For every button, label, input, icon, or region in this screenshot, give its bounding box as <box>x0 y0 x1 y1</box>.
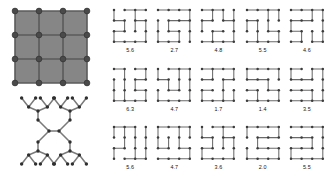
spanning-tree-node <box>233 99 236 102</box>
spanning-tree-node <box>290 9 293 12</box>
lattice-node <box>60 80 66 86</box>
spanning-tree-node <box>222 9 225 12</box>
spanning-tree-node <box>157 67 160 70</box>
spanning-tree-node <box>290 41 293 44</box>
lattice-node <box>84 8 90 14</box>
tree-node <box>71 96 74 99</box>
spanning-tree-node <box>267 19 270 22</box>
spanning-tree-node <box>290 126 293 129</box>
lattice-face <box>15 11 39 35</box>
spanning-tree-node <box>277 137 280 140</box>
spanning-tree-node <box>321 89 324 92</box>
spanning-tree-node <box>277 78 280 81</box>
spanning-tree-node <box>267 67 270 70</box>
sample-tree-svg <box>286 122 328 164</box>
tree-edge <box>72 155 79 164</box>
tree-node <box>46 153 49 156</box>
spanning-tree-node <box>123 9 126 12</box>
spanning-tree-node <box>123 19 126 22</box>
spanning-tree-node <box>256 158 259 161</box>
spanning-tree-node <box>201 126 204 129</box>
tree-edge <box>59 120 70 131</box>
spanning-tree-node <box>256 9 259 12</box>
sample-cell: 4.7 <box>152 117 196 176</box>
spanning-tree-node <box>201 89 204 92</box>
lattice-node <box>84 80 90 86</box>
spanning-tree-node <box>233 158 236 161</box>
spanning-tree-node <box>145 41 148 44</box>
spanning-tree-node <box>212 137 215 140</box>
spanning-tree-node <box>245 99 248 102</box>
spanning-tree-node <box>267 89 270 92</box>
spanning-tree-node <box>277 158 280 161</box>
spanning-tree-node <box>157 137 160 140</box>
spanning-tree-node <box>212 158 215 161</box>
spanning-tree-node <box>300 30 303 33</box>
spanning-tree-node <box>321 158 324 161</box>
spanning-tree-node <box>300 19 303 22</box>
tree-node <box>78 105 81 108</box>
spanning-tree-node <box>123 126 126 129</box>
spanning-tree-node <box>157 19 160 22</box>
spanning-tree-node <box>233 41 236 44</box>
sample-grid: 5.62.74.85.54.66.34.71.71.43.55.64.73.62… <box>108 0 329 176</box>
sample-tree-svg <box>109 5 151 47</box>
spanning-tree-node <box>157 78 160 81</box>
spanning-tree-node <box>123 99 126 102</box>
spanning-tree-node <box>222 41 225 44</box>
spanning-tree-node <box>123 41 126 44</box>
lattice-node <box>12 56 18 62</box>
lattice-node <box>12 8 18 14</box>
lattice-face <box>15 35 39 59</box>
spanning-tree-node <box>256 99 259 102</box>
spanning-tree-node <box>256 41 259 44</box>
spanning-tree-node <box>321 147 324 150</box>
spanning-tree-node <box>267 9 270 12</box>
spanning-tree-node <box>277 19 280 22</box>
spanning-tree-node <box>311 9 314 12</box>
spanning-tree-node <box>134 99 137 102</box>
tree-node <box>20 96 23 99</box>
spanning-tree-node <box>222 158 225 161</box>
spanning-tree-node <box>123 147 126 150</box>
spanning-tree-node <box>212 9 215 12</box>
sample-label: 5.6 <box>126 164 134 170</box>
sample-tree-svg <box>286 5 328 47</box>
tree-node <box>36 109 39 112</box>
sample-cell: 3.6 <box>196 117 240 176</box>
spanning-tree-node <box>201 30 204 33</box>
spanning-tree-node <box>168 137 171 140</box>
sample-label: 2.7 <box>170 47 178 53</box>
sample-cell: 4.7 <box>152 59 196 118</box>
lattice-face <box>63 35 87 59</box>
lattice-node <box>60 56 66 62</box>
spanning-tree-node <box>267 99 270 102</box>
sample-tree-svg <box>109 64 151 106</box>
spanning-tree-node <box>189 147 192 150</box>
lattice-node <box>84 56 90 62</box>
spanning-tree-node <box>178 158 181 161</box>
spanning-tree-node <box>267 30 270 33</box>
spanning-tree-node <box>212 41 215 44</box>
spanning-tree-node <box>178 126 181 129</box>
spanning-tree-node <box>256 30 259 33</box>
tree-node <box>27 105 30 108</box>
spanning-tree-node <box>300 158 303 161</box>
tree-node <box>68 140 71 143</box>
spanning-tree-node <box>178 41 181 44</box>
spanning-tree-node <box>290 89 293 92</box>
tree-edge <box>40 155 47 164</box>
spanning-tree-node <box>212 89 215 92</box>
sample-tree-svg <box>197 64 239 106</box>
spanning-tree-node <box>222 126 225 129</box>
tree-edge <box>72 98 79 107</box>
spanning-tree-node <box>233 126 236 129</box>
spanning-tree-node <box>245 78 248 81</box>
spanning-tree-node <box>245 158 248 161</box>
spanning-tree-node <box>113 158 116 161</box>
spanning-tree-node <box>189 19 192 22</box>
tree-node <box>78 153 81 156</box>
spanning-tree-node <box>113 30 116 33</box>
tree-node <box>85 96 88 99</box>
tree-node <box>52 96 55 99</box>
